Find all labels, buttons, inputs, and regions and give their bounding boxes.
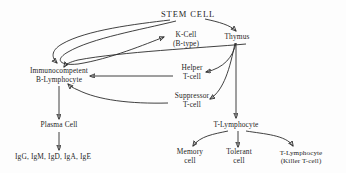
edge-suppressort-to-blymphocyte [68,84,168,103]
node-helper-t-cell-line-1: T-cell [181,73,202,82]
node-killer-t-cell-line-1: (Killer T-cell) [280,157,323,165]
node-antibodies-line-0: IgG, IgM, IgD, IgA, IgE [15,153,91,162]
node-plasma-cell-line-0: Plasma Cell [40,121,77,130]
node-tolerant-cell-line-1: cell [226,157,252,166]
node-suppressor-t-cell-line-1: T-cell [175,101,209,110]
node-killer-t-cell[interactable]: T-Lymphocyte (Killer T-cell) [280,149,323,166]
node-memory-cell-line-1: cell [177,157,203,166]
node-t-lymphocyte-line-0: T-Lymphocyte [213,121,258,130]
node-antibodies[interactable]: IgG, IgM, IgD, IgA, IgE [15,153,91,162]
diagram-canvas: STEM CELL K-Cell (B-type) Thymus Immunoc… [0,0,346,173]
edge-tlymphocyte-to-memorycell [193,131,228,146]
node-k-cell[interactable]: K-Cell (B-type) [173,31,199,48]
diagram-edges [0,0,346,173]
node-suppressor-t-cell[interactable]: Suppressor T-cell [175,92,209,109]
node-k-cell-line-1: (B-type) [173,40,199,49]
edge-thymus-to-suppressort [210,43,235,99]
node-b-lymphocyte-line-1: B-Lymphocyte [30,76,88,85]
edge-kcell-to-blymphocyte [64,44,246,67]
node-plasma-cell[interactable]: Plasma Cell [40,121,77,130]
node-thymus-line-0: Thymus [224,33,249,42]
node-memory-cell[interactable]: Memory cell [177,148,203,165]
node-helper-t-cell[interactable]: Helper T-cell [181,64,202,81]
node-thymus[interactable]: Thymus [224,33,249,42]
edge-stemcell-to-thymus [205,19,236,31]
node-immunocompetent-b-lymphocyte[interactable]: Immunocompetent B-Lymphocyte [30,67,88,84]
node-stem-cell[interactable]: STEM CELL [161,9,215,19]
edge-tlymphocyte-to-killert [246,131,293,146]
node-t-lymphocyte[interactable]: T-Lymphocyte [213,121,258,130]
node-stem-cell-line-0: STEM CELL [161,9,215,19]
node-tolerant-cell[interactable]: Tolerant cell [226,148,252,165]
node-killer-t-cell-line-0: T-Lymphocyte [280,149,323,157]
